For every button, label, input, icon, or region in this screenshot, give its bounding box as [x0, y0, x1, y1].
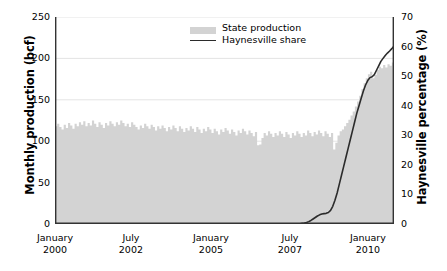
y-tick-right-40: 40: [401, 100, 427, 111]
x-tick-month: January: [333, 232, 403, 244]
y-tick-right-70: 70: [401, 11, 427, 22]
x-tick-month: January: [20, 232, 90, 244]
y-tick-left-100: 100: [24, 135, 50, 146]
y-tick-right-60: 60: [401, 41, 427, 52]
x-tick-july-2002: July2002: [96, 232, 166, 255]
y-tick-right-10: 10: [401, 188, 427, 199]
plot-area: [55, 17, 394, 224]
x-tick-year: 2002: [96, 244, 166, 256]
x-tick-year: 2007: [255, 244, 325, 256]
y-tick-left-200: 200: [24, 52, 50, 63]
x-tick-month: July: [255, 232, 325, 244]
x-tick-year: 2000: [20, 244, 90, 256]
x-tick-month: January: [176, 232, 246, 244]
x-tick-year: 2010: [333, 244, 403, 256]
chart-figure: Monthly production (bcf) Haynesville per…: [0, 0, 447, 271]
y-tick-left-150: 150: [24, 94, 50, 105]
y-tick-right-50: 50: [401, 70, 427, 81]
x-tick-july-2007: July2007: [255, 232, 325, 255]
y-tick-right-20: 20: [401, 159, 427, 170]
x-tick-month: July: [96, 232, 166, 244]
x-tick-january-2000: January2000: [20, 232, 90, 255]
area-series-state-production: [55, 63, 394, 224]
x-tick-year: 2005: [176, 244, 246, 256]
y-tick-left-50: 50: [24, 177, 50, 188]
x-tick-january-2010: January2010: [333, 232, 403, 255]
chart-canvas: [55, 17, 394, 224]
y-tick-left-0: 0: [24, 218, 50, 229]
x-tick-january-2005: January2005: [176, 232, 246, 255]
y-tick-left-250: 250: [24, 11, 50, 22]
y-tick-right-0: 0: [401, 218, 427, 229]
y-tick-right-30: 30: [401, 129, 427, 140]
